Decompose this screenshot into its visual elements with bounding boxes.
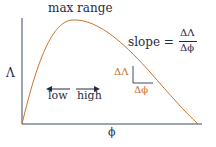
slope-triangle bbox=[133, 66, 153, 83]
low-label: low bbox=[48, 89, 68, 102]
slope-prefix: slope = bbox=[128, 35, 174, 49]
slope-numerator: ΔΛ bbox=[180, 27, 194, 38]
high-label: high bbox=[77, 89, 102, 102]
triangle-horizontal-label: Δϕ bbox=[134, 84, 148, 95]
y-axis-label: Λ bbox=[6, 66, 15, 80]
max-range-label: max range bbox=[48, 1, 113, 15]
diagram-canvas bbox=[0, 0, 216, 147]
x-axis-label: ϕ bbox=[108, 126, 116, 139]
slope-denominator: Δϕ bbox=[180, 42, 194, 53]
triangle-vertical-label: ΔΛ bbox=[114, 66, 128, 77]
